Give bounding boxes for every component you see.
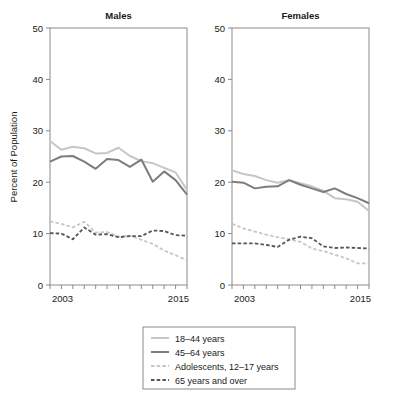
legend-label-2: Adolescents, 12–17 years — [175, 362, 279, 372]
legend-label-0: 18–44 years — [175, 334, 225, 344]
y-tick-label: 0 — [38, 280, 43, 291]
x-tick-label-start: 2003 — [52, 293, 73, 304]
y-tick-label: 40 — [214, 74, 225, 85]
y-axis-title: Percent of Population — [8, 112, 19, 203]
y-tick-label: 20 — [214, 177, 225, 188]
plot-frame — [232, 28, 369, 285]
chart-legend: 18–44 years45–64 yearsAdolescents, 12–17… — [143, 327, 295, 389]
series-line-males-3 — [50, 227, 187, 239]
legend-label-3: 65 years and over — [175, 376, 247, 386]
y-tick-label: 40 — [32, 74, 43, 85]
y-tick-label: 50 — [214, 23, 225, 34]
chart-canvas: Males0102030405020032015Females010203040… — [0, 0, 396, 399]
y-tick-label: 30 — [214, 125, 225, 136]
y-tick-label: 10 — [32, 228, 43, 239]
y-tick-label: 10 — [214, 228, 225, 239]
x-tick-label-end: 2015 — [168, 293, 189, 304]
y-tick-label: 0 — [220, 280, 225, 291]
series-line-males-0 — [50, 141, 187, 190]
panel-males: Males0102030405020032015 — [32, 10, 189, 304]
x-tick-label-start: 2003 — [234, 293, 255, 304]
y-tick-label: 30 — [32, 125, 43, 136]
x-tick-label-end: 2015 — [350, 293, 371, 304]
y-tick-label: 50 — [32, 23, 43, 34]
panel-females: Females0102030405020032015 — [214, 10, 371, 304]
y-tick-label: 20 — [32, 177, 43, 188]
panel-title-females: Females — [281, 10, 319, 21]
series-line-males-1 — [50, 156, 187, 195]
legend-label-1: 45–64 years — [175, 348, 225, 358]
series-line-females-0 — [232, 170, 369, 211]
series-line-males-2 — [50, 221, 187, 260]
chart-figure: Males0102030405020032015Females010203040… — [0, 0, 396, 399]
panel-title-males: Males — [105, 10, 131, 21]
